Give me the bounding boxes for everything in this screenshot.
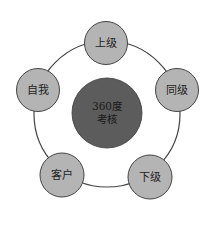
center-label-line2: 考核 — [97, 113, 117, 126]
node-superior-label: 上级 — [84, 35, 128, 51]
node-customer-label: 客户 — [40, 167, 84, 183]
center-label: 360度 考核 — [72, 96, 142, 130]
node-peer-label: 同级 — [155, 82, 199, 98]
node-self-label: 自我 — [16, 82, 60, 98]
node-subordinate-label: 下级 — [128, 169, 172, 185]
center-label-line1: 360度 — [92, 100, 122, 113]
